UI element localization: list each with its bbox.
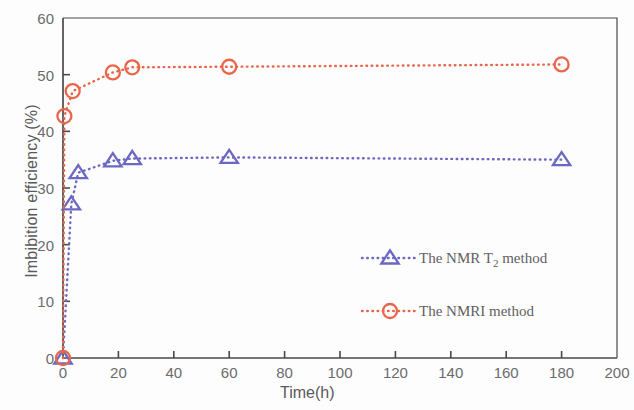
x-tick-label: 180 <box>549 364 574 381</box>
x-tick-label: 40 <box>165 364 182 381</box>
data-point-1-5 <box>222 60 236 74</box>
legend-entry-nmr-t2: The NMR T2 method <box>419 250 547 269</box>
legend-entry-nmri: The NMRI method <box>419 303 534 322</box>
y-tick-label: 30 <box>14 180 54 197</box>
y-tick-label: 60 <box>14 10 54 27</box>
data-point-1-6 <box>555 57 569 71</box>
y-tick-label: 20 <box>14 236 54 253</box>
legend-label-nmr-t2-main: The NMR T <box>419 250 493 266</box>
x-tick-label: 20 <box>110 364 127 381</box>
x-tick-label: 160 <box>494 364 519 381</box>
x-tick-label: 100 <box>327 364 352 381</box>
legend-label-nmri-main: The NMRI method <box>419 303 534 319</box>
y-tick-label: 10 <box>14 293 54 310</box>
y-tick-label: 50 <box>14 66 54 83</box>
x-tick-label: 140 <box>438 364 463 381</box>
x-tick-label: 120 <box>383 364 408 381</box>
x-tick-label: 200 <box>604 364 629 381</box>
imbibition-efficiency-chart: Imbibition efficiency (%) Time(h) 010203… <box>0 0 634 410</box>
data-point-1-2 <box>66 84 80 98</box>
x-tick-label: 0 <box>59 364 67 381</box>
data-point-0-4 <box>124 151 141 164</box>
y-tick-label: 40 <box>14 123 54 140</box>
data-point-1-1 <box>57 109 71 123</box>
plot-area <box>0 0 634 410</box>
y-tick-label: 0 <box>14 350 54 367</box>
legend-label-nmr-t2-tail: method <box>498 250 547 266</box>
legend-markers <box>362 250 418 318</box>
x-tick-label: 80 <box>276 364 293 381</box>
x-tick-label: 60 <box>221 364 238 381</box>
